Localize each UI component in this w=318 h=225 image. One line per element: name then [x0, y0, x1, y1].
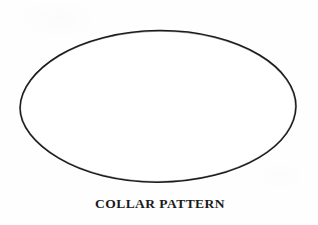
caption-label: COLLAR PATTERN — [95, 196, 225, 212]
pattern-sheet: COLLAR PATTERN — [0, 0, 318, 225]
figure-caption: COLLAR PATTERN — [0, 194, 318, 212]
collar-pattern-figure — [0, 0, 318, 225]
ellipse-outline-icon — [0, 0, 318, 225]
